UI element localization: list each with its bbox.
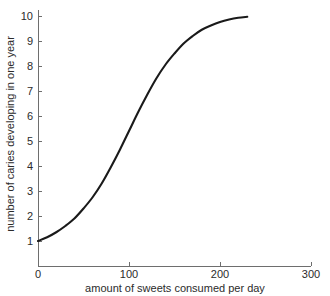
y-tick-label: 3: [27, 185, 33, 197]
chart-plot-area: 12345678910 0100200300 amount of sweets …: [0, 0, 330, 296]
data-series-line: [38, 17, 247, 241]
y-tick-label: 5: [27, 135, 33, 147]
y-axis-ticks: [38, 16, 42, 241]
y-tick-label: 9: [27, 35, 33, 47]
y-tick-label: 7: [27, 85, 33, 97]
y-tick-label: 4: [27, 160, 33, 172]
x-tick-label: 100: [120, 268, 138, 280]
y-tick-label: 2: [27, 210, 33, 222]
y-axis-title: number of caries developing in one year: [4, 36, 16, 232]
x-tick-label: 0: [35, 268, 41, 280]
y-tick-label: 10: [21, 10, 33, 22]
x-axis-tick-labels: 0100200300: [35, 268, 320, 280]
x-axis-ticks: [38, 262, 311, 266]
x-axis-title: amount of sweets consumed per day: [85, 282, 265, 294]
y-axis-tick-labels: 12345678910: [21, 10, 33, 247]
x-tick-label: 200: [211, 268, 229, 280]
y-tick-label: 1: [27, 235, 33, 247]
x-tick-label: 300: [302, 268, 320, 280]
y-tick-label: 8: [27, 60, 33, 72]
y-tick-label: 6: [27, 110, 33, 122]
chart-container: 12345678910 0100200300 amount of sweets …: [0, 0, 330, 296]
